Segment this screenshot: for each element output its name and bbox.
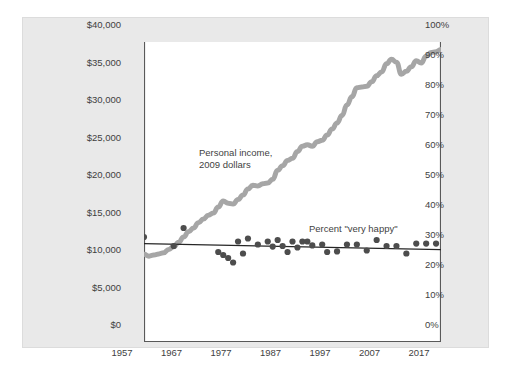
- plot-area: Personal income, 2009 dollars Percent "v…: [144, 42, 441, 342]
- chart-panel: Personal income, 2009 dollars Percent "v…: [22, 17, 489, 348]
- right-axis-tick-label: 60%: [425, 140, 444, 150]
- right-axis-tick-label: 70%: [425, 110, 444, 120]
- happiness-data-point: [280, 243, 286, 249]
- happiness-data-point: [171, 243, 177, 249]
- right-axis-tick-label: 50%: [425, 170, 444, 180]
- happiness-data-point: [354, 241, 360, 247]
- happiness-data-point: [334, 248, 340, 254]
- right-axis-tick-label: 10%: [425, 290, 444, 300]
- happiness-data-point: [235, 238, 241, 244]
- left-axis-tick-label: $40,000: [37, 20, 121, 30]
- x-axis-tick-label: 2007: [359, 348, 380, 358]
- x-axis-tick-label: 1977: [210, 348, 231, 358]
- left-axis-tick-label: $20,000: [37, 170, 121, 180]
- happiness-data-point: [284, 249, 290, 255]
- x-axis-tick-label: 1967: [161, 348, 182, 358]
- right-axis-tick-label: 80%: [425, 80, 444, 90]
- plot-svg: [144, 42, 441, 342]
- income-annotation: Personal income, 2009 dollars: [199, 147, 272, 170]
- happiness-data-point: [324, 249, 330, 255]
- happiness-annotation: Percent "very happy": [309, 223, 398, 235]
- left-axis-tick-label: $35,000: [37, 58, 121, 68]
- happiness-data-point: [289, 238, 295, 244]
- happiness-data-point: [230, 259, 236, 265]
- happiness-data-point: [413, 241, 419, 247]
- chart-figure: Personal income, 2009 dollars Percent "v…: [0, 0, 512, 369]
- left-axis-tick-label: $15,000: [37, 208, 121, 218]
- right-axis-tick-label: 100%: [425, 20, 449, 30]
- happiness-data-point: [403, 250, 409, 256]
- happiness-data-point: [319, 241, 325, 247]
- happiness-data-point: [255, 241, 261, 247]
- happiness-data-point: [344, 241, 350, 247]
- happiness-data-point: [383, 243, 389, 249]
- happiness-data-point: [304, 238, 310, 244]
- happiness-data-point: [364, 247, 370, 253]
- x-axis-tick-label: 2017: [408, 348, 429, 358]
- happiness-data-point: [265, 238, 271, 244]
- happiness-data-point: [423, 241, 429, 247]
- left-axis-tick-label: $0: [37, 320, 121, 330]
- income-annotation-line1: Personal income,: [199, 147, 272, 159]
- right-axis-tick-label: 0%: [425, 320, 439, 330]
- left-axis-tick-label: $10,000: [37, 245, 121, 255]
- happiness-data-point: [433, 241, 439, 247]
- happiness-annotation-line1: Percent "very happy": [309, 223, 398, 235]
- happiness-data-point: [270, 244, 276, 250]
- x-axis-tick-label: 1987: [260, 348, 281, 358]
- happiness-data-point: [144, 234, 147, 240]
- right-axis-tick-label: 20%: [425, 260, 444, 270]
- left-axis-tick-label: $25,000: [37, 133, 121, 143]
- x-axis-tick-label: 1997: [309, 348, 330, 358]
- happiness-data-point: [309, 242, 315, 248]
- happiness-data-point: [275, 237, 281, 243]
- left-axis-tick-label: $30,000: [37, 95, 121, 105]
- happiness-data-point: [374, 237, 380, 243]
- x-axis-tick-label: 1957: [111, 348, 132, 358]
- happiness-data-point: [245, 235, 251, 241]
- happiness-data-point: [240, 250, 246, 256]
- right-axis-tick-label: 90%: [425, 50, 444, 60]
- happiness-data-point: [181, 225, 187, 231]
- right-axis-tick-label: 30%: [425, 230, 444, 240]
- right-axis-tick-label: 40%: [425, 200, 444, 210]
- income-annotation-line2: 2009 dollars: [199, 159, 272, 171]
- left-axis-tick-label: $5,000: [37, 283, 121, 293]
- happiness-data-point: [225, 255, 231, 261]
- happiness-data-point: [393, 243, 399, 249]
- happiness-data-point: [294, 244, 300, 250]
